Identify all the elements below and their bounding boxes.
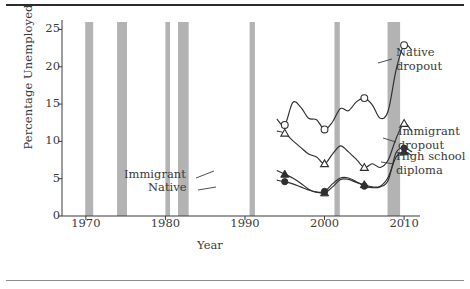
- x-tick-label: 1990: [222, 216, 268, 230]
- bottom-divider-rule: [6, 280, 464, 281]
- y-axis-tick-labels: 0510152025: [32, 10, 60, 210]
- recession-band: [334, 22, 339, 216]
- x-axis-tick-labels: 19701980199020002010: [0, 216, 470, 236]
- marker-filled-triangle: [281, 170, 289, 177]
- x-tick-label: 1980: [142, 216, 188, 230]
- x-tick-label: 2010: [381, 216, 427, 230]
- marker-open-circle: [281, 122, 288, 129]
- leader-line: [198, 187, 216, 190]
- legend-entry[interactable]: Immigrantdropout: [398, 125, 460, 152]
- y-tick-label: 15: [34, 96, 60, 110]
- legend-entry[interactable]: High schooldiploma: [396, 150, 465, 177]
- legend-entry[interactable]: Nativedropout: [396, 46, 442, 73]
- y-tick-label: 5: [34, 171, 60, 185]
- chart-plot-area: Percentage Unemployed Year 0510152025 19…: [0, 10, 470, 262]
- legend-label-line2: diploma: [396, 164, 465, 178]
- x-tick-label: 2000: [302, 216, 348, 230]
- top-divider-rule: [6, 4, 464, 6]
- recession-bands-group: [85, 22, 400, 216]
- legend-label-line1: Immigrant: [398, 125, 460, 139]
- recession-band: [85, 22, 93, 216]
- y-tick-label: 20: [34, 59, 60, 73]
- legend-label-line1: Native: [396, 46, 442, 60]
- marker-filled-circle: [321, 188, 327, 194]
- y-tick-label: 10: [34, 133, 60, 147]
- recession-band: [250, 22, 255, 216]
- x-tick-label: 1970: [63, 216, 109, 230]
- leader-line: [196, 171, 214, 178]
- x-axis-label: Year: [0, 238, 420, 252]
- marker-open-triangle: [281, 129, 289, 136]
- legend-label-line1: High school: [396, 150, 465, 164]
- axis-group: [58, 20, 420, 220]
- marker-filled-circle: [361, 183, 367, 189]
- recession-band: [117, 22, 127, 216]
- annotation-native: Native: [148, 181, 187, 194]
- figure-container: Percentage Unemployed Year 0510152025 19…: [0, 0, 470, 289]
- marker-open-circle: [321, 126, 328, 133]
- marker-filled-circle: [282, 179, 288, 185]
- y-tick-label: 25: [34, 21, 60, 35]
- marker-open-circle: [361, 95, 368, 102]
- legend-label-line2: dropout: [396, 60, 442, 74]
